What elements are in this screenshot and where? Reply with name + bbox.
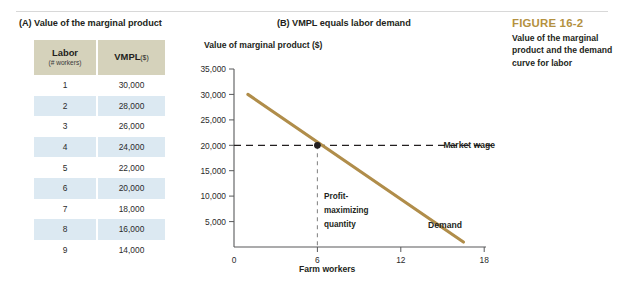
y-tick-label-6: 5,000 <box>205 217 226 227</box>
cell-labor: 5 <box>34 157 96 178</box>
y-tick-label-2: 25,000 <box>200 115 226 125</box>
x-tick-label-3: 18 <box>480 255 490 265</box>
profit-max-quantity-annotation: Profit- maximizing quantity <box>324 192 369 229</box>
cell-vmpl: 26,000 <box>98 116 165 137</box>
y-tick-label-1: 30,000 <box>200 90 226 100</box>
x-tick-label-2: 12 <box>396 255 406 265</box>
cell-vmpl: 24,000 <box>98 137 165 158</box>
column-header-vmpl-unit: ($) <box>140 54 148 61</box>
vmpl-demand-chart: Value of marginal product ($) Farm worke… <box>196 36 496 281</box>
plot-area: 35,000 30,000 25,000 20,000 15,000 10,00… <box>196 36 496 281</box>
x-tick-label-0: 0 <box>232 255 237 265</box>
x-tick-label-1: 6 <box>315 255 320 265</box>
equilibrium-point <box>314 142 321 149</box>
profit-max-line-3: quantity <box>324 220 356 229</box>
table-row: 130,000 <box>34 75 165 96</box>
column-header-vmpl: VMPL($) <box>98 40 165 75</box>
y-axis-tick-labels: 35,000 30,000 25,000 20,000 15,000 10,00… <box>200 64 226 227</box>
cell-vmpl: 30,000 <box>98 75 165 96</box>
cell-labor: 6 <box>34 178 96 199</box>
vmpl-table: Labor (# workers) VMPL($) 130,000228,000… <box>32 40 167 260</box>
table-row: 522,000 <box>34 157 165 178</box>
cell-vmpl: 16,000 <box>98 219 165 240</box>
column-header-labor-main: Labor <box>34 48 96 58</box>
table-row: 914,000 <box>34 240 165 261</box>
market-wage-label: Market wage <box>443 140 495 150</box>
table-body: 130,000228,000326,000424,000522,000620,0… <box>34 75 165 260</box>
cell-labor: 3 <box>34 116 96 137</box>
y-tick-label-4: 15,000 <box>200 166 226 176</box>
cell-labor: 8 <box>34 219 96 240</box>
cell-vmpl: 20,000 <box>98 178 165 199</box>
figure-caption-block: FIGURE 16-2 Value of the marginal produc… <box>512 17 622 69</box>
column-header-labor-sub: (# workers) <box>34 59 96 66</box>
cell-labor: 9 <box>34 240 96 261</box>
cell-labor: 7 <box>34 199 96 220</box>
table-row: 228,000 <box>34 96 165 117</box>
panel-b-title: (B) VMPL equals labor demand <box>277 18 411 28</box>
panel-a-title: (A) Value of the marginal product <box>19 18 162 28</box>
y-tick-label-5: 10,000 <box>200 191 226 201</box>
cell-labor: 4 <box>34 137 96 158</box>
figure-caption-text: Value of the marginal product and the de… <box>512 32 622 69</box>
cell-labor: 2 <box>34 96 96 117</box>
demand-label: Demand <box>428 220 462 230</box>
cell-labor: 1 <box>34 75 96 96</box>
y-tick-label-3: 20,000 <box>200 141 226 151</box>
table-header-row: Labor (# workers) VMPL($) <box>34 40 165 75</box>
table-row: 326,000 <box>34 116 165 137</box>
cell-vmpl: 28,000 <box>98 96 165 117</box>
cell-vmpl: 22,000 <box>98 157 165 178</box>
x-axis-ticks <box>317 247 484 252</box>
figure-16-2: (A) Value of the marginal product (B) VM… <box>0 0 639 287</box>
top-divider-rule <box>16 11 608 12</box>
y-tick-label-0: 35,000 <box>200 64 226 74</box>
table-row: 816,000 <box>34 219 165 240</box>
y-axis-ticks <box>229 69 234 222</box>
figure-number: FIGURE 16-2 <box>512 17 622 30</box>
table-row: 718,000 <box>34 199 165 220</box>
cell-vmpl: 18,000 <box>98 199 165 220</box>
column-header-labor: Labor (# workers) <box>34 40 96 75</box>
profit-max-line-1: Profit- <box>324 192 348 201</box>
table-row: 424,000 <box>34 137 165 158</box>
profit-max-line-2: maximizing <box>324 206 369 215</box>
column-header-vmpl-main: VMPL($) <box>98 52 165 62</box>
cell-vmpl: 14,000 <box>98 240 165 261</box>
table-row: 620,000 <box>34 178 165 199</box>
x-axis-tick-labels: 0 6 12 18 <box>232 255 490 265</box>
